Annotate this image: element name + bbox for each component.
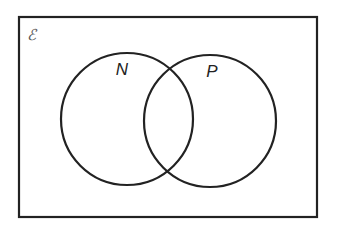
set-n-label: N bbox=[116, 60, 129, 79]
universal-set-rectangle bbox=[19, 17, 317, 217]
set-p-label: P bbox=[206, 62, 218, 81]
universal-set-label: ℰ bbox=[27, 26, 38, 44]
venn-diagram: ℰ N P bbox=[0, 0, 337, 236]
